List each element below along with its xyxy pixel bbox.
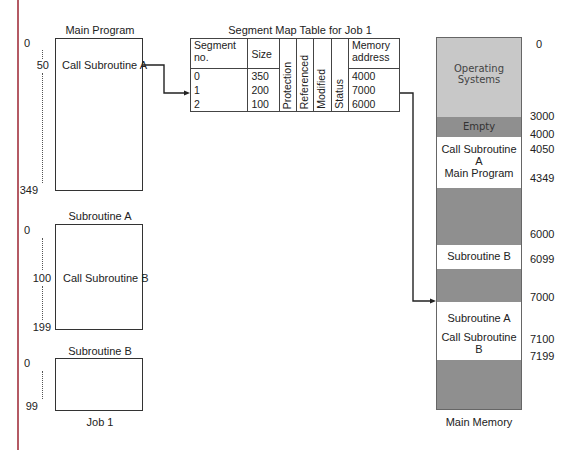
arrowhead-icon [430, 299, 436, 304]
arrow-main-to-segment-1 [143, 65, 186, 93]
arrowhead-icon [184, 91, 190, 96]
arrow-segment-to-memory-7000 [400, 93, 432, 301]
connector-arrows [0, 0, 579, 450]
